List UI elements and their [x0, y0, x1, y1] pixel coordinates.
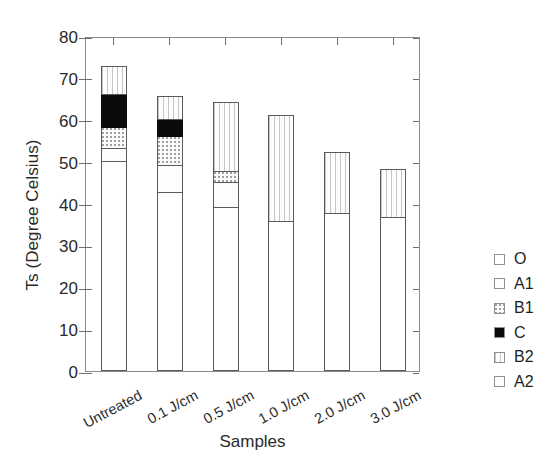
y-axis-tick	[79, 121, 86, 122]
y-axis-tick	[79, 205, 86, 206]
bar-segment-b2	[213, 102, 239, 172]
y-axis-tick	[79, 331, 86, 332]
y-axis-tick-right	[413, 331, 419, 332]
y-axis-tick-right	[413, 289, 419, 290]
legend-item-a2: A2	[494, 370, 546, 395]
y-axis-tick-inner	[86, 247, 92, 248]
y-axis-tick-right	[413, 38, 419, 39]
legend-label: A1	[514, 276, 534, 292]
y-axis-tick-inner	[86, 289, 92, 290]
y-axis-tick	[79, 289, 86, 290]
bar-untreated	[101, 36, 127, 371]
bar-segment-b1	[101, 127, 127, 149]
y-axis-tick-label: 60	[32, 113, 78, 130]
bar-segment-o	[380, 217, 406, 371]
y-axis-tick-label: 50	[32, 155, 78, 172]
y-axis-tick-label: 80	[32, 29, 78, 46]
legend-swatch-o	[494, 254, 505, 265]
bar-segment-a1	[213, 182, 239, 208]
bar-segment-a1	[157, 165, 183, 193]
x-axis-category-label: 0.1 J/cm	[144, 387, 200, 427]
bar-0-5-j-cm	[213, 36, 239, 371]
y-axis-tick-label: 10	[32, 322, 78, 339]
bar-segment-o	[268, 221, 294, 371]
y-axis-tick-right	[413, 163, 419, 164]
y-axis-tick-label: 70	[32, 71, 78, 88]
bar-segment-o	[157, 192, 183, 371]
y-axis-tick-inner	[86, 79, 92, 80]
bar-segment-b2	[268, 115, 294, 223]
y-axis-tick-label: 0	[32, 364, 78, 381]
y-axis-tick-inner	[86, 331, 92, 332]
y-axis-tick-inner	[86, 205, 92, 206]
bar-segment-o	[324, 213, 350, 371]
legend-label: C	[514, 325, 526, 341]
bar-0-1-j-cm	[157, 36, 183, 371]
bar-segment-o	[213, 207, 239, 371]
bar-segment-b2	[380, 169, 406, 218]
y-axis-tick-right	[413, 373, 419, 374]
legend-item-c: C	[494, 321, 546, 346]
x-axis-category-label: 2.0 J/cm	[312, 387, 368, 427]
y-axis-tick	[79, 373, 86, 374]
legend-label: A2	[514, 374, 534, 390]
y-axis-tick-right	[413, 121, 419, 122]
legend-swatch-b2	[494, 352, 505, 363]
legend-swatch-b1	[494, 303, 505, 314]
bar-segment-b2	[157, 96, 183, 120]
x-axis-category-label: 1.0 J/cm	[256, 387, 312, 427]
bar-3-0-j-cm	[380, 36, 406, 371]
bar-segment-b2	[324, 152, 350, 214]
legend-swatch-a1	[494, 278, 505, 289]
y-axis-tick-label: 30	[32, 238, 78, 255]
legend-item-b2: B2	[494, 345, 546, 370]
y-axis-tick	[79, 79, 86, 80]
y-axis-tick-inner	[86, 121, 92, 122]
legend-swatch-a2	[494, 376, 505, 387]
legend-label: B1	[514, 300, 534, 316]
x-axis-category-label: Untreated	[81, 387, 145, 431]
y-axis-tick-inner	[86, 38, 92, 39]
x-axis-category-label: 3.0 J/cm	[368, 387, 424, 427]
bar-segment-b2	[101, 66, 127, 94]
bar-segment-o	[101, 161, 127, 371]
legend-item-b1: B1	[494, 296, 546, 321]
bar-segment-b1	[157, 136, 183, 166]
bar-segment-c	[157, 119, 183, 137]
y-axis-tick-label: 40	[32, 197, 78, 214]
y-axis-tick-right	[413, 79, 419, 80]
legend-label: O	[514, 251, 526, 267]
bar-segment-b1	[213, 171, 239, 182]
x-axis-title: Samples	[85, 432, 420, 452]
legend-label: B2	[514, 349, 534, 365]
bar-1-0-j-cm	[268, 36, 294, 371]
chart-legend: OA1B1CB2A2	[494, 247, 546, 394]
y-axis-tick	[79, 163, 86, 164]
bar-segment-a1	[101, 148, 127, 162]
bar-2-0-j-cm	[324, 36, 350, 371]
y-axis-tick	[79, 247, 86, 248]
x-axis-category-label: 0.5 J/cm	[200, 387, 256, 427]
y-axis-tick-inner	[86, 373, 92, 374]
plot-area: 01020304050607080	[85, 37, 420, 372]
legend-item-a1: A1	[494, 272, 546, 297]
y-axis-tick-inner	[86, 163, 92, 164]
y-axis-tick-right	[413, 247, 419, 248]
y-axis-tick-label: 20	[32, 280, 78, 297]
legend-swatch-c	[494, 327, 505, 338]
y-axis-tick	[79, 38, 86, 39]
legend-item-o: O	[494, 247, 546, 272]
chart-figure: Ts (Degree Celsius) Samples 010203040506…	[0, 0, 547, 475]
y-axis-tick-right	[413, 205, 419, 206]
bar-segment-c	[101, 94, 127, 129]
